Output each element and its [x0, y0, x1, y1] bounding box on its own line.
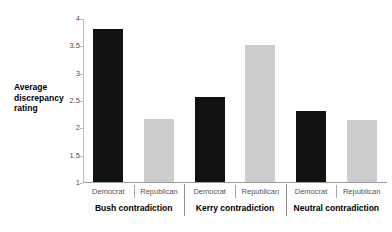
- y-tick-label: 1.5: [70, 152, 80, 160]
- y-tick-label: 3: [76, 70, 80, 78]
- bar-neutral-democrat[interactable]: [296, 111, 326, 182]
- bars-layer: [83, 19, 387, 183]
- category-label-band: DemocratRepublicanDemocratRepublicanDemo…: [83, 184, 387, 199]
- category-label-republican: Republican: [336, 184, 387, 199]
- group-label-band: Bush contradictionKerry contradictionNeu…: [83, 200, 387, 216]
- category-separator: [134, 185, 135, 198]
- category-label-democrat: Democrat: [184, 184, 235, 199]
- y-tick-label: 2: [76, 125, 80, 133]
- y-axis-title-line-1: Average: [14, 82, 76, 93]
- bar-chart: Average discrepancy rating 11.522.533.54…: [0, 0, 392, 232]
- plot-area: 11.522.533.54: [83, 19, 387, 183]
- bar-kerry-democrat[interactable]: [195, 97, 225, 182]
- group-label-bush: Bush contradiction: [83, 200, 184, 216]
- y-tick-label: 4: [76, 15, 80, 23]
- bar-kerry-republican[interactable]: [245, 45, 275, 182]
- bar-bush-democrat[interactable]: [93, 29, 123, 182]
- group-separator: [184, 184, 185, 216]
- y-axis-title: Average discrepancy rating: [14, 82, 76, 114]
- category-separator: [235, 185, 236, 198]
- category-label-democrat: Democrat: [286, 184, 337, 199]
- y-axis-title-line-3: rating: [14, 103, 76, 114]
- bar-neutral-republican[interactable]: [347, 120, 377, 182]
- group-label-neutral: Neutral contradiction: [286, 200, 387, 216]
- y-tick-label: 3.5: [70, 43, 80, 51]
- category-label-democrat: Democrat: [83, 184, 134, 199]
- group-label-kerry: Kerry contradiction: [184, 200, 285, 216]
- category-label-republican: Republican: [134, 184, 185, 199]
- y-tick-label: 1: [76, 179, 80, 187]
- category-label-republican: Republican: [235, 184, 286, 199]
- category-separator: [336, 185, 337, 198]
- y-axis-title-line-2: discrepancy: [14, 93, 76, 104]
- group-separator: [286, 184, 287, 216]
- y-tick-label: 2.5: [70, 97, 80, 105]
- bar-bush-republican[interactable]: [144, 119, 174, 182]
